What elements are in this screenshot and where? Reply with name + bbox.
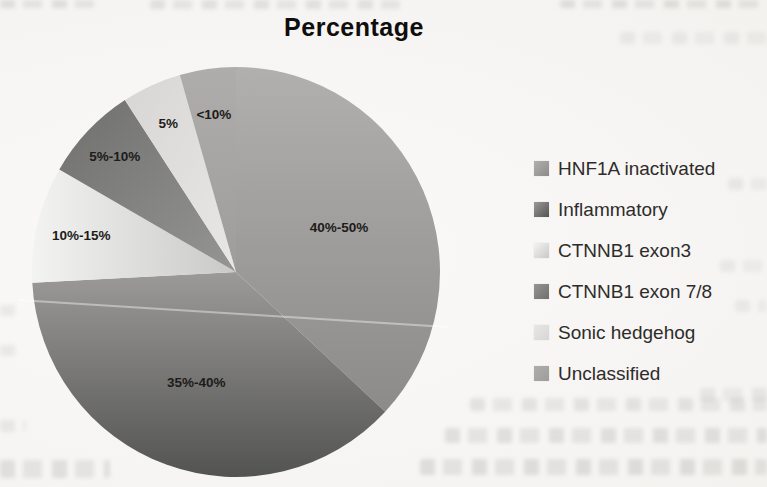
legend-item-ctnnb1-exon-7-8: CTNNB1 exon 7/8 xyxy=(534,271,767,312)
legend-swatch-ctnnb1-exon3 xyxy=(534,243,549,258)
slice-label-ctnnb1-exon-7-8: 5%-10% xyxy=(89,149,140,164)
legend-label-unclassified: Unclassified xyxy=(558,364,660,383)
legend-item-unclassified: Unclassified xyxy=(534,353,767,394)
slice-label-ctnnb1-exon3: 10%-15% xyxy=(52,228,111,243)
legend-label-sonic-hedgehog: Sonic hedgehog xyxy=(558,323,695,342)
legend-swatch-unclassified xyxy=(534,366,549,381)
chart-title: Percentage xyxy=(284,13,424,42)
legend-label-inflammatory: Inflammatory xyxy=(558,200,668,219)
legend-item-inflammatory: Inflammatory xyxy=(534,189,767,230)
legend-swatch-ctnnb1-exon-7-8 xyxy=(534,284,549,299)
legend-swatch-sonic-hedgehog xyxy=(534,325,549,340)
slice-label-sonic-hedgehog: 5% xyxy=(159,116,179,131)
legend-label-hnf1a-inactivated: HNF1A inactivated xyxy=(558,159,715,178)
legend: HNF1A inactivatedInflammatoryCTNNB1 exon… xyxy=(534,148,767,394)
legend-item-sonic-hedgehog: Sonic hedgehog xyxy=(534,312,767,353)
slice-label-hnf1a-inactivated: 40%-50% xyxy=(310,220,369,235)
legend-label-ctnnb1-exon3: CTNNB1 exon3 xyxy=(558,241,691,260)
legend-item-ctnnb1-exon3: CTNNB1 exon3 xyxy=(534,230,767,271)
slice-label-unclassified: <10% xyxy=(196,107,231,122)
legend-item-hnf1a-inactivated: HNF1A inactivated xyxy=(534,148,767,189)
pie-slices xyxy=(32,67,440,477)
legend-swatch-hnf1a-inactivated xyxy=(534,161,549,176)
slice-label-inflammatory: 35%-40% xyxy=(167,375,226,390)
scanned-page: Percentage 40%-50%35%-40%10%-15%5%-10%5%… xyxy=(0,0,767,487)
legend-swatch-inflammatory xyxy=(534,202,549,217)
legend-label-ctnnb1-exon-7-8: CTNNB1 exon 7/8 xyxy=(558,282,712,301)
